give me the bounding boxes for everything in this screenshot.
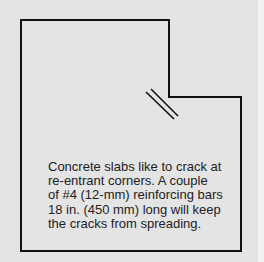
caption-line: the cracks from spreading. — [48, 217, 238, 231]
caption-line: re-entrant corners. A couple — [48, 174, 238, 188]
caption-text: Concrete slabs like to crack at re-entra… — [48, 160, 238, 231]
diagram-canvas: Concrete slabs like to crack at re-entra… — [0, 0, 258, 262]
rebar-mark — [151, 89, 178, 116]
caption-line: of #4 (12-mm) reinforcing bars — [48, 188, 238, 202]
caption-line: Concrete slabs like to crack at — [48, 160, 238, 174]
caption-line: 18 in. (450 mm) long will keep — [48, 203, 238, 217]
